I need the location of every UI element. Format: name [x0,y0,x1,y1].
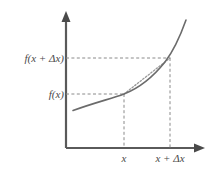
y-axis-label-upper: f(x + Δx) [24,53,64,64]
diagram-canvas [0,0,212,174]
x-axis-label-right: x + Δx [155,153,184,164]
function-curve [73,20,186,111]
y-axis [62,11,71,148]
x-axis-label-left: x [122,153,127,164]
y-axis-label-lower: f(x) [49,89,64,100]
guide-lines [66,58,170,148]
x-axis-arrowhead-icon [194,144,205,153]
secant-line-diagram: f(x + Δx) f(x) x x + Δx [0,0,212,174]
y-axis-arrowhead-icon [62,11,71,22]
